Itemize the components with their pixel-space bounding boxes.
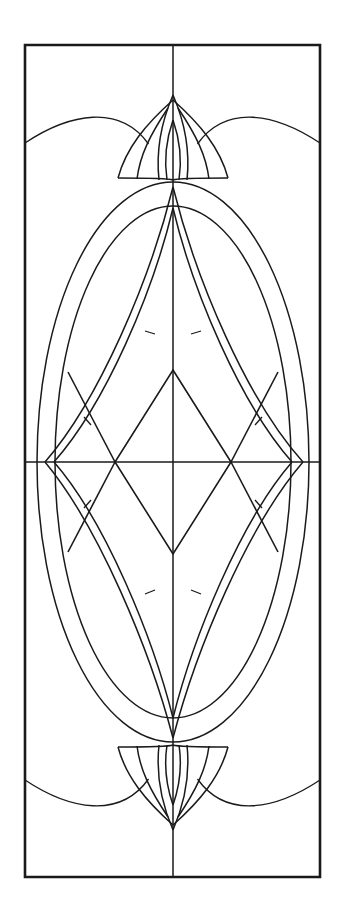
top-finial-bud-right [173,120,180,180]
top-finial-petal-outer-left-base [118,178,173,180]
star-band-outer-lower-right [173,462,303,738]
axes-group [25,45,320,877]
stained-glass-panel: Stained Glass Panel Pattern Leaded glass… [0,0,346,921]
facet-lower-left [68,462,115,552]
star-band-outer-upper-left [45,187,173,462]
star-band-outer-upper-right [173,187,303,462]
band-tick-ur-1 [191,331,201,334]
bottom-finial-petal-outer-left-base [118,745,173,747]
top-finial-petal-outer-right-base [173,178,228,180]
bottom-background-arc-left [25,779,149,806]
top-background-arc-left [25,117,149,144]
star-band-outer-lower-left [45,462,173,738]
top-finial-bud-left [166,120,173,180]
facet-upper-right [231,372,278,462]
top-finial-petal-mid-left [137,108,168,179]
band-tick-ll-1 [145,331,155,334]
bottom-finial-bud-right [173,745,180,805]
panel-drawing [0,0,346,921]
band-tick-lr-2 [191,590,201,594]
bottom-finial-bud-left [166,745,173,805]
bottom-finial-petal-mid-left [137,746,168,817]
bottom-finial-petal-outer-right-base [173,745,228,747]
bottom-background-arc-right [197,779,320,806]
band-tick-ul-2 [145,590,155,594]
bottom-finial-petal-mid-right [178,746,209,817]
top-finial-petal-mid-right [178,108,209,179]
facet-upper-left [68,372,115,462]
top-background-arc-right [197,117,320,144]
